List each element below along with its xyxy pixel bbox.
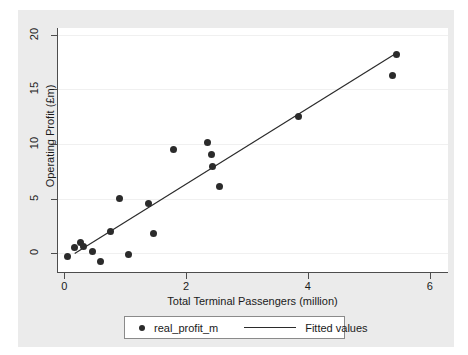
scatter-point — [393, 51, 400, 58]
scatter-point — [97, 258, 104, 265]
legend-label-scatter: real_profit_m — [154, 322, 218, 334]
y-tick-label: 15 — [28, 76, 40, 100]
y-tick-label: 5 — [28, 186, 40, 210]
fitted-values-line — [57, 28, 448, 273]
x-tick-label: 2 — [174, 280, 198, 292]
legend-line-marker-icon — [244, 327, 296, 329]
x-tick-label: 0 — [52, 280, 76, 292]
scatter-point — [64, 253, 71, 260]
y-tick-label: 10 — [28, 131, 40, 155]
scatter-point — [80, 243, 87, 250]
scatter-point — [150, 230, 157, 237]
chart-legend: real_profit_m Fitted values — [124, 316, 345, 339]
scatter-point — [216, 183, 223, 190]
y-tick-label: 0 — [28, 240, 40, 264]
x-tick-mark — [430, 273, 431, 279]
x-tick-mark — [186, 273, 187, 279]
x-tick-label: 4 — [296, 280, 320, 292]
y-axis-label: Operating Profit (£m) — [44, 46, 56, 226]
legend-entry-line: Fitted values — [218, 322, 367, 334]
x-tick-mark — [64, 273, 65, 279]
legend-circle-marker-icon — [139, 325, 145, 331]
x-axis-label: Total Terminal Passengers (million) — [57, 295, 448, 307]
x-tick-label: 6 — [418, 280, 442, 292]
scatter-point — [71, 244, 78, 251]
legend-label-line: Fitted values — [305, 322, 367, 334]
x-tick-mark — [308, 273, 309, 279]
chart-figure: 05101520 0246 Operating Profit (£m) Tota… — [0, 0, 468, 355]
y-tick-label: 20 — [28, 22, 40, 46]
scatter-point — [208, 151, 215, 158]
scatter-point — [389, 72, 396, 79]
legend-entry-scatter: real_profit_m — [125, 322, 218, 334]
